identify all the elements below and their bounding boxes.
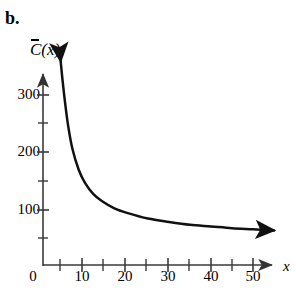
curve-path bbox=[61, 61, 274, 230]
plot-canvas bbox=[0, 0, 296, 296]
y-axis bbox=[37, 74, 49, 266]
x-axis bbox=[43, 258, 272, 272]
data-series-average-cost bbox=[61, 61, 274, 230]
figure-panel: b. C(x) x 300 200 100 0 10 20 30 40 50 bbox=[0, 0, 296, 296]
